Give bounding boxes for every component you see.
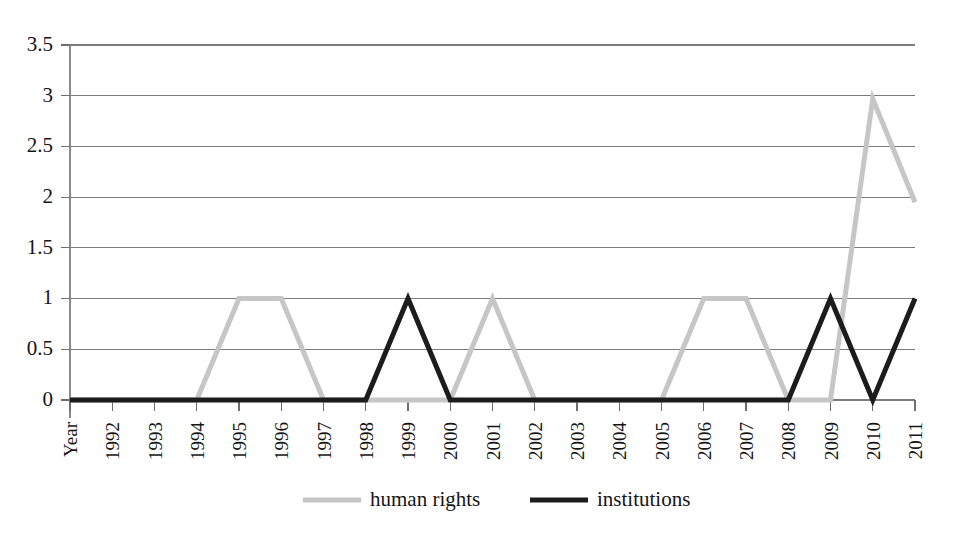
chart-legend: human rightsinstitutions <box>303 487 690 511</box>
y-axis-tick-label: 0.5 <box>27 336 53 360</box>
y-tick-labels-group: 00.511.522.533.5 <box>27 32 53 411</box>
x-axis-tick-label: 1996 <box>271 422 292 460</box>
y-axis-tick-label: 3.5 <box>27 32 53 56</box>
x-axis-tick-label: 2005 <box>652 422 673 460</box>
data-series-group <box>70 99 915 400</box>
legend-label-institutions: institutions <box>597 487 690 511</box>
x-axis-tick-label: 2010 <box>863 422 884 460</box>
x-axis-tick-label: Year <box>60 421 81 457</box>
x-axis-tick-label: 2003 <box>567 422 588 460</box>
x-axis-tick-label: 1994 <box>187 422 208 461</box>
x-tick-labels-group: Year199219931994199519961997199819992000… <box>60 421 926 460</box>
y-axis-tick-label: 0 <box>43 387 54 411</box>
line-chart: 00.511.522.533.5 Year1992199319941995199… <box>0 0 958 536</box>
x-axis-tick-label: 2008 <box>778 422 799 460</box>
y-axis-tick-label: 3 <box>43 83 54 107</box>
x-axis-tick-label: 2004 <box>609 422 630 461</box>
x-axis-tick-label: 1993 <box>145 422 166 460</box>
gridlines-group <box>70 45 915 400</box>
y-axis-tick-label: 2.5 <box>27 133 53 157</box>
x-axis-tick-label: 2002 <box>525 422 546 460</box>
y-axis-tick-label: 2 <box>43 184 54 208</box>
y-axis-tick-label: 1.5 <box>27 235 53 259</box>
chart-container: 00.511.522.533.5 Year1992199319941995199… <box>0 0 958 536</box>
legend-label-human-rights: human rights <box>370 487 480 511</box>
x-axis-tick-label: 1998 <box>356 422 377 460</box>
x-axis-tick-label: 1992 <box>102 422 123 460</box>
x-axis-tick-label: 2001 <box>483 422 504 460</box>
x-axis-tick-label: 2006 <box>694 422 715 460</box>
x-axis-tick-label: 2000 <box>440 422 461 460</box>
x-axis-tick-label: 2009 <box>821 422 842 460</box>
x-axis-tick-label: 1995 <box>229 422 250 460</box>
series-line-human-rights <box>70 99 915 400</box>
x-axis-tick-label: 2011 <box>905 422 926 459</box>
y-axis-group <box>61 45 70 418</box>
x-axis-tick-label: 2007 <box>736 422 757 460</box>
y-axis-tick-label: 1 <box>43 285 54 309</box>
x-axis-tick-label: 1999 <box>398 422 419 460</box>
x-axis-tick-label: 1997 <box>314 422 335 460</box>
